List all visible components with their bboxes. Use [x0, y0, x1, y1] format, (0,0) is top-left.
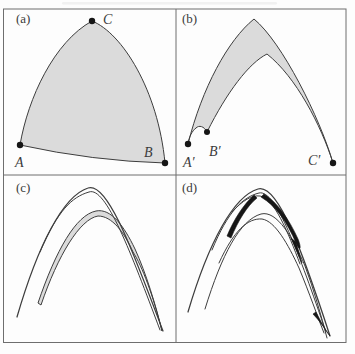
- point-B-prime-dot: [204, 129, 210, 135]
- panel-d: (d): [182, 180, 330, 338]
- panel-label-d: (d): [182, 180, 197, 195]
- point-label-B: B: [144, 145, 153, 160]
- panel-label-b: (b): [182, 11, 197, 26]
- panel-a: (a) A B C: [14, 11, 168, 170]
- point-C-dot: [89, 18, 95, 24]
- point-label-A-prime: A′: [182, 155, 196, 170]
- shaded-region-b: [188, 19, 333, 163]
- panel-label-a: (a): [16, 11, 30, 26]
- inner-arch-curve-1-d: [205, 214, 327, 338]
- dark-caustic-tip-d: [313, 312, 330, 336]
- point-C-prime-dot: [330, 160, 336, 166]
- point-A-prime-dot: [185, 141, 191, 147]
- scan-artifact: [62, 2, 277, 5]
- outer-arch-curve-1-d: [188, 189, 330, 336]
- panel-b: (b) A′ B′ C′: [182, 11, 336, 170]
- point-label-C-prime: C′: [308, 153, 321, 168]
- panel-c: (c): [16, 180, 163, 331]
- shaded-sliver-c: [38, 211, 162, 331]
- shaded-region-a: [20, 21, 165, 163]
- point-label-C: C: [103, 12, 113, 27]
- point-B-dot: [162, 160, 168, 166]
- outer-arch-curve-1-c: [17, 188, 163, 331]
- four-panel-caustic-diagram: (a) A B C (b) A′ B′ C′ (c): [0, 0, 355, 354]
- point-label-B-prime: B′: [209, 144, 222, 159]
- point-label-A: A: [14, 155, 24, 170]
- point-A-dot: [17, 142, 23, 148]
- panel-label-c: (c): [16, 180, 30, 195]
- figure-canvas: (a) A B C (b) A′ B′ C′ (c): [0, 0, 355, 354]
